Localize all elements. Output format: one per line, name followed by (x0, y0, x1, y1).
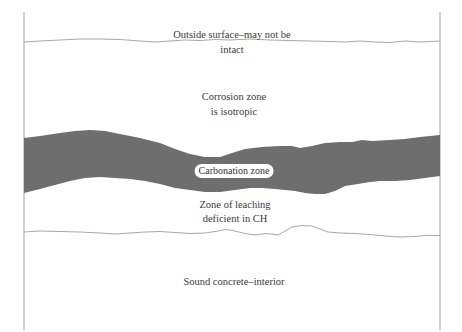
concrete-cross-section-diagram: Outside surface–may not be intact Corros… (0, 0, 462, 332)
outside-surface-label-line2: intact (220, 43, 243, 56)
leaching-boundary-line (24, 226, 440, 238)
leaching-zone-label-line1: Zone of leaching (199, 198, 270, 211)
carbonation-zone-band (24, 130, 440, 194)
sound-concrete-label: Sound concrete–interior (183, 275, 284, 288)
corrosion-zone-label-line1: Corrosion zone (202, 90, 266, 103)
carbonation-zone-label: Carbonation zone (195, 164, 274, 178)
leaching-zone-label-line2: deficient in CH (203, 212, 268, 225)
corrosion-zone-label-line2: is isotropic (211, 105, 257, 118)
outside-surface-label-line1: Outside surface–may not be (173, 28, 291, 41)
